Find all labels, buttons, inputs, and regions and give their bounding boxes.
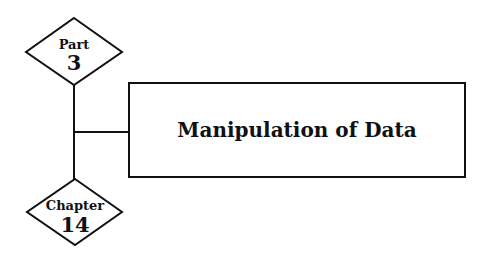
chapter-number: 14 — [35, 214, 115, 236]
chapter-label: Chapter — [35, 199, 115, 213]
chapter-title: Manipulation of Data — [129, 83, 465, 177]
part-number: 3 — [44, 52, 104, 74]
